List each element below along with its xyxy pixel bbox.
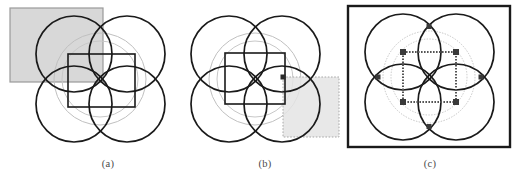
panel-a-caption: (a) — [88, 158, 128, 169]
panel-c-node-bottom-left — [400, 99, 406, 105]
panel-b-anchor-marker — [281, 75, 286, 80]
panel-b-caption: (b) — [245, 158, 285, 169]
panel-c-caption: (c) — [410, 158, 450, 169]
panel-c-node-left — [376, 75, 381, 80]
panel-b-inner-square — [225, 53, 285, 104]
panel-a — [10, 8, 165, 142]
figure-container: (a) (b) (c) — [0, 0, 518, 183]
panel-a-circle-bottom-right — [89, 66, 165, 142]
panel-b-circle-top-right — [244, 16, 320, 92]
figure-drawing — [0, 0, 518, 183]
panel-b — [191, 16, 339, 142]
panel-c-node-bottom-right — [453, 99, 459, 105]
panel-c-node-top-left — [400, 49, 406, 55]
panel-c-node-right — [479, 75, 484, 80]
panel-c — [348, 6, 510, 147]
panel-c-node-top-right — [453, 49, 459, 55]
panel-c-node-top — [427, 24, 432, 29]
panel-c-node-bottom — [427, 124, 432, 129]
